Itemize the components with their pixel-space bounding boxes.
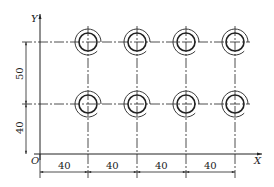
x-axis-label: X <box>253 155 262 166</box>
dim-vertical-40: 40 <box>14 121 25 134</box>
column-centerlines <box>88 26 235 178</box>
y-axis-label: Y <box>31 13 39 24</box>
dim-vertical-50: 50 <box>14 67 25 80</box>
dim-horizontal-2: 40 <box>106 160 119 171</box>
hole-pattern-drawing: Y X O 40 50 40 40 40 <box>0 0 274 187</box>
dim-horizontal-1: 40 <box>58 160 71 171</box>
holes <box>75 29 248 117</box>
dim-horizontal-3: 40 <box>155 160 168 171</box>
origin-label: O <box>31 155 39 166</box>
dim-horizontal-4: 40 <box>204 160 217 171</box>
